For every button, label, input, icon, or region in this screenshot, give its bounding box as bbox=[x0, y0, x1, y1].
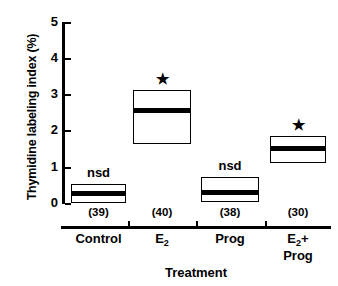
category-label-e2-prog-line2: Prog bbox=[268, 248, 328, 264]
y-tick-label-3: 3 bbox=[40, 86, 58, 101]
x-tick-mark-2 bbox=[196, 221, 198, 226]
category-label-e2-text: E bbox=[155, 231, 164, 246]
category-label-e2-prog-subscript: 2 bbox=[296, 238, 301, 248]
y-tick-mark-3 bbox=[65, 94, 71, 96]
y-tick-label-5: 5 bbox=[40, 14, 58, 29]
y-axis-line bbox=[62, 22, 65, 204]
category-label-e2-prog: E2+ Prog bbox=[268, 231, 328, 264]
y-tick-mark-0 bbox=[65, 203, 71, 205]
category-label-e2-prog-suffix: + bbox=[301, 231, 309, 246]
n-label-e2: (40) bbox=[133, 206, 191, 218]
category-label-prog: Prog bbox=[200, 231, 260, 247]
category-label-prog-text: Prog bbox=[215, 231, 245, 246]
category-label-control-text: Control bbox=[75, 231, 121, 246]
median-line-e2 bbox=[133, 108, 191, 113]
annotation-e2-star-icon: ★ bbox=[133, 71, 191, 86]
y-tick-mark-5 bbox=[65, 22, 71, 24]
x-tick-mark-3 bbox=[265, 221, 267, 226]
plot-area: 5 4 3 2 1 0 nsd (39) Control ★ (40) E2 n… bbox=[0, 0, 338, 286]
y-tick-mark-2 bbox=[65, 130, 71, 132]
y-tick-label-4: 4 bbox=[40, 50, 58, 65]
box-e2 bbox=[133, 90, 191, 144]
annotation-prog: nsd bbox=[201, 158, 259, 173]
n-label-e2-prog: (30) bbox=[270, 206, 326, 218]
median-line-e2-prog bbox=[270, 146, 326, 151]
y-tick-label-2: 2 bbox=[40, 122, 58, 137]
n-label-prog: (38) bbox=[201, 206, 259, 218]
x-axis-title: Treatment bbox=[61, 265, 331, 280]
category-label-e2: E2 bbox=[132, 231, 192, 248]
category-label-e2-subscript: 2 bbox=[164, 238, 169, 248]
category-label-e2-prog-text: E bbox=[287, 231, 296, 246]
y-tick-label-0: 0 bbox=[40, 195, 58, 210]
category-label-control: Control bbox=[61, 231, 136, 247]
y-tick-label-1: 1 bbox=[40, 159, 58, 174]
y-tick-mark-4 bbox=[65, 58, 71, 60]
chart-figure: Thymidine labeling index (%) 5 4 3 2 1 0… bbox=[0, 0, 338, 286]
median-line-control bbox=[71, 191, 126, 196]
n-label-control: (39) bbox=[71, 206, 126, 218]
x-axis-line bbox=[61, 226, 331, 229]
annotation-control: nsd bbox=[71, 165, 126, 180]
median-line-prog bbox=[201, 190, 259, 195]
annotation-e2-prog-star-icon: ★ bbox=[270, 117, 326, 132]
x-tick-mark-1 bbox=[128, 221, 130, 226]
